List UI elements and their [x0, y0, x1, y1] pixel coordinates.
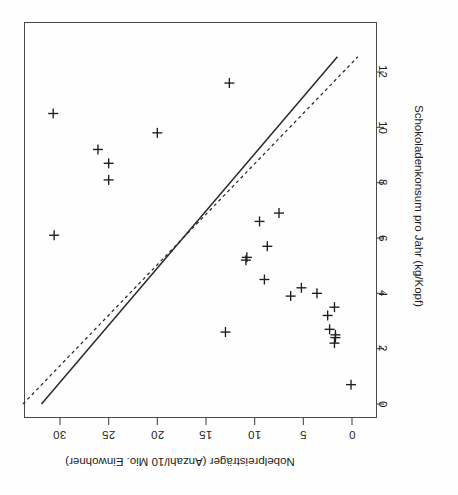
scatter-point — [104, 175, 114, 185]
scatter-point — [323, 310, 333, 320]
scatter-point — [241, 255, 251, 265]
xaxis-tick-label-0: 0 — [377, 401, 389, 408]
regression-line-solid — [42, 57, 338, 404]
scatter-point — [152, 128, 162, 138]
scatter-point — [93, 144, 103, 154]
yaxis-tick-label-5: 5 — [300, 429, 307, 441]
scatter-point — [104, 158, 114, 168]
scatter-point — [259, 275, 269, 285]
yaxis-title: Nobelpreisträger (Anzahl/10 Mio. Einwohn… — [40, 456, 320, 468]
yaxis-tick-label-25: 25 — [102, 429, 115, 441]
plot-vector-layer — [0, 0, 458, 495]
scatter-point — [346, 380, 356, 390]
scatter-point — [220, 327, 230, 337]
xaxis-title: Schokoladenkonsum pro Jahr (kg/Kopf) — [413, 105, 425, 307]
xaxis-tick-label-6: 6 — [377, 235, 389, 242]
scatter-point — [286, 291, 296, 301]
xaxis-tick-label-8: 8 — [377, 179, 389, 186]
xaxis-tick-label-12: 12 — [377, 65, 389, 78]
yaxis-tick-label-10: 10 — [248, 429, 261, 441]
scatter-point — [329, 338, 339, 348]
scanned-figure-canvas: 024681012051015202530Schokoladenkonsum p… — [0, 0, 458, 495]
scatter-point — [242, 252, 252, 262]
scatter-point — [255, 216, 265, 226]
scatter-point — [330, 333, 340, 343]
scatter-point — [49, 230, 59, 240]
scatter-point — [312, 288, 322, 298]
yaxis-tick-label-30: 30 — [53, 429, 66, 441]
yaxis-tick-label-20: 20 — [151, 429, 164, 441]
yaxis-tick-label-15: 15 — [199, 429, 212, 441]
scatter-point — [325, 324, 335, 334]
scatter-point — [296, 283, 306, 293]
yaxis-tick-label-0: 0 — [349, 429, 356, 441]
scatter-point — [224, 78, 234, 88]
regression-lines — [23, 57, 358, 404]
xaxis-tick-label-4: 4 — [377, 290, 389, 297]
tick-marks — [60, 72, 384, 425]
scatter-point — [262, 241, 272, 251]
xaxis-tick-label-10: 10 — [377, 121, 389, 134]
xaxis-tick-label-2: 2 — [377, 345, 389, 352]
scatter-point — [329, 302, 339, 312]
scatter-point — [274, 208, 284, 218]
scatter-point — [48, 109, 58, 119]
